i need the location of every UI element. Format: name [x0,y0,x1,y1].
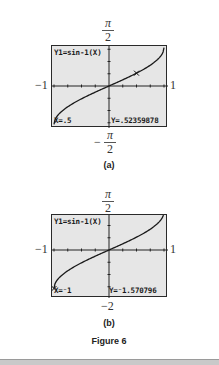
figure-caption: Figure 6 [69,336,149,346]
panel-b-x-readout: X=⁻1 [54,286,71,295]
panel-b-label: (b) [89,318,129,328]
pi-symbol: π [100,130,120,141]
pi-symbol: π [98,189,118,200]
panel-a-x-min-label: −1 [35,78,48,93]
page-bottom-divider [0,359,219,365]
fraction: π 2 [100,130,120,155]
panel-b-y-max-label: π 2 [98,189,118,214]
panel-a-y-readout: Y=.52359878 [111,116,158,125]
panel-a-y-max-label: π 2 [98,18,118,43]
panel-b-y-min-label: −2 [101,299,114,314]
panel-a-x-max-label: 1 [170,78,176,93]
pi-symbol: π [98,18,118,29]
denominator: 2 [98,203,118,214]
panel-a-label: (a) [89,160,129,170]
panel-b-x-max-label: 1 [170,242,176,257]
denominator: 2 [98,32,118,43]
panel-a-x-readout: X=.5 [54,116,71,125]
panel-a-calculator-screen: Y1=sin-1(X) X=.5 Y=.52359878 [51,45,167,127]
panel-b-equation: Y1=sin-1(X) [54,217,101,226]
denominator: 2 [100,144,120,155]
panel-b-y-readout: Y=⁻1.570796 [109,286,156,295]
panel-a-equation: Y1=sin-1(X) [54,48,101,57]
panel-b-x-min-label: −1 [35,242,48,257]
panel-b-calculator-screen: Y1=sin-1(X) X=⁻1 Y=⁻1.570796 [51,214,167,297]
